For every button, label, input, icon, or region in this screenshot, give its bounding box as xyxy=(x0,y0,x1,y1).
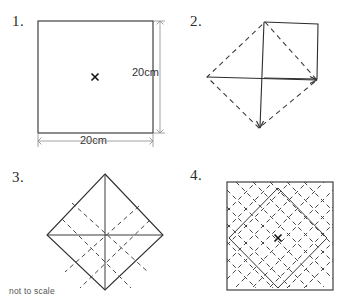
figure-2-axis-arrows xyxy=(207,22,317,128)
figure-4-square xyxy=(227,182,333,290)
figure-3-group xyxy=(47,174,163,290)
figure-1-group xyxy=(38,21,165,147)
figures-artwork xyxy=(0,0,349,302)
figure-2-dashed-diamond xyxy=(207,22,317,128)
not-to-scale-note: not to scale xyxy=(9,286,55,296)
figure-2-number: 2. xyxy=(190,13,202,30)
worksheet-canvas: 1. 2. 3. 4. 20cm 20cm not to scale xyxy=(0,0,349,302)
figure-3-dashed-overlay xyxy=(62,203,150,288)
figure-4-number: 4. xyxy=(190,167,202,184)
figure-4-centre-x-mark xyxy=(275,235,282,242)
figure-3-solid-diamond xyxy=(47,174,163,290)
figure-4-inner-diamond xyxy=(229,188,327,288)
figure-3-number: 3. xyxy=(12,169,24,186)
figure-2-solid-square xyxy=(264,22,318,79)
figure-1-centre-x-mark xyxy=(92,74,99,81)
figure-4-lattice-direction-a xyxy=(227,182,333,288)
figure-1-height-dimension-label: 20cm xyxy=(130,66,161,78)
figure-4-lattice-direction-b xyxy=(227,182,333,288)
figure-4-group xyxy=(227,182,333,290)
figure-1-width-dimension-label: 20cm xyxy=(78,134,109,146)
figure-2-group xyxy=(207,22,318,128)
figure-1-number: 1. xyxy=(12,13,24,30)
